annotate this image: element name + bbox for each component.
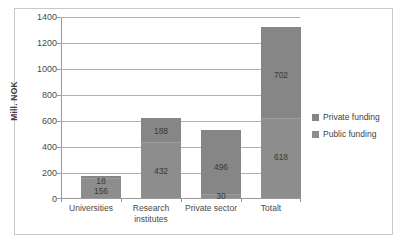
chart-legend: Private funding Public funding [312, 112, 392, 146]
legend-item-public-funding[interactable]: Public funding [312, 129, 392, 139]
bar-label-public: 30 [201, 191, 241, 201]
y-axis-tick-labels: 1400 1200 1000 800 600 400 200 0 [13, 0, 57, 251]
x-label-private-sector: Private sector [181, 203, 241, 214]
x-tickmark [61, 198, 62, 202]
y-tick-label: 600 [15, 117, 57, 126]
legend-label: Public funding [323, 129, 376, 139]
x-label-research-institutes: Research institutes [121, 203, 181, 225]
x-tickmark [300, 198, 301, 202]
x-label-line1: Totalt [241, 203, 301, 214]
bar-label-public: 432 [141, 166, 181, 176]
bar-label-private: 496 [201, 162, 241, 172]
x-label-line1: Universities [61, 203, 121, 214]
y-tick-label: 1400 [15, 13, 57, 22]
x-label-line2: institutes [121, 214, 181, 225]
bar-label-private: 188 [141, 126, 181, 136]
x-tickmark [181, 198, 182, 202]
bar-label-private: 702 [261, 70, 301, 80]
y-tick-label: 0 [15, 195, 57, 204]
y-tick-label: 1200 [15, 39, 57, 48]
x-label-totalt: Totalt [241, 203, 301, 214]
gridline [61, 17, 300, 18]
x-axis-category-labels: Universities Research institutes Private… [61, 203, 301, 243]
legend-swatch-icon [312, 131, 319, 138]
x-label-line1: Private sector [181, 203, 241, 214]
bar-label-public: 618 [261, 152, 301, 162]
y-tick-label: 200 [15, 169, 57, 178]
legend-label: Private funding [323, 112, 380, 122]
y-tick-label: 400 [15, 143, 57, 152]
chart-figure: Mill. NOK 1400 1200 1000 800 600 400 200… [0, 0, 408, 251]
bar-private-sector[interactable]: 496 30 [201, 130, 241, 198]
bar-research-institutes[interactable]: 188 432 [141, 118, 181, 198]
plot-area: 18 156 188 432 496 30 702 618 [61, 17, 300, 198]
x-tickmark [121, 198, 122, 202]
legend-swatch-icon [312, 114, 319, 121]
legend-item-private-funding[interactable]: Private funding [312, 112, 392, 122]
y-tick-label: 800 [15, 91, 57, 100]
bar-label-public: 156 [81, 186, 121, 196]
bar-label-private: 18 [81, 176, 121, 186]
x-label-universities: Universities [61, 203, 121, 214]
y-tick-label: 1000 [15, 65, 57, 74]
x-label-line1: Research [121, 203, 181, 214]
bar-universities[interactable]: 18 156 [81, 176, 121, 198]
bar-totalt[interactable]: 702 618 [261, 27, 301, 198]
x-tickmark [241, 198, 242, 202]
